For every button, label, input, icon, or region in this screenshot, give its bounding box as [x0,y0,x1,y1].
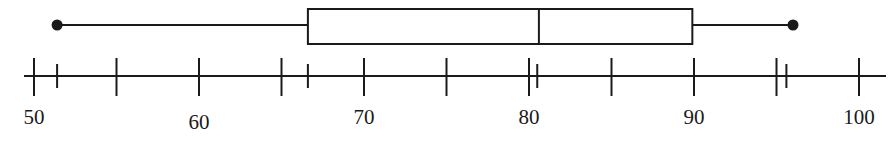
number-line-axis [24,58,886,96]
tick-label: 100 [843,105,875,129]
box-plot [52,9,799,44]
tick-label: 70 [354,105,375,129]
box-plot-chart: 5060708090100 [0,0,893,143]
tick-label: 60 [189,110,210,134]
tick-label: 80 [519,105,540,129]
min-point [52,20,63,31]
tick-label: 50 [24,105,45,129]
axis-tick-labels: 5060708090100 [24,105,875,134]
interquartile-box [308,9,692,44]
max-point [788,20,799,31]
tick-label: 90 [684,105,705,129]
